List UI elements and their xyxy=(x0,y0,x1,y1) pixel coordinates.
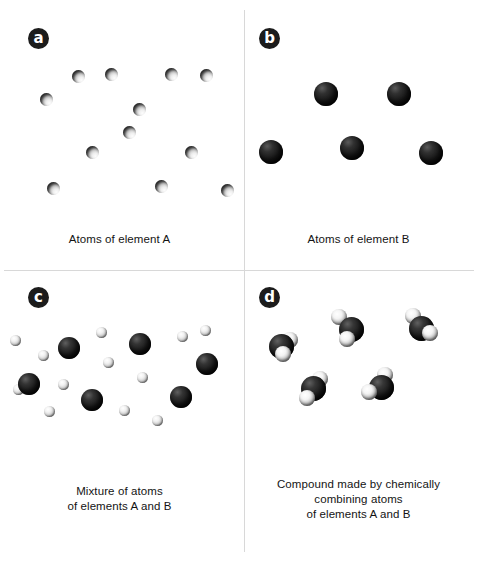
caption-line: combining atoms xyxy=(239,492,478,507)
atom-element-b xyxy=(419,141,443,165)
atom-element-a xyxy=(72,70,85,83)
panel-c-scene xyxy=(0,281,239,506)
atom-element-a xyxy=(47,182,60,195)
atom-element-b xyxy=(340,136,364,160)
atom-element-a xyxy=(58,379,69,390)
atom-element-a xyxy=(96,327,107,338)
molecule-compound-ab xyxy=(331,309,375,349)
atom-element-a xyxy=(105,68,118,81)
panel-d-caption: Compound made by chemicallycombining ato… xyxy=(239,477,478,522)
atom-element-a xyxy=(165,68,178,81)
atom-element-a xyxy=(103,357,114,368)
atom-element-b xyxy=(196,353,218,375)
atom-element-b xyxy=(387,82,411,106)
molecule-compound-ab xyxy=(261,326,305,366)
figure-canvas: a Atoms of element A b Atoms of element … xyxy=(0,0,478,562)
atom-element-b xyxy=(18,373,40,395)
atom-element-a xyxy=(40,93,53,106)
panel-c-caption: Mixture of atomsof elements A and B xyxy=(0,484,239,514)
atom-element-a xyxy=(38,350,49,361)
caption-line: Atoms of element A xyxy=(0,232,239,247)
atom-element-b xyxy=(314,82,338,106)
molecule-atom-element-a xyxy=(339,331,355,347)
molecule-compound-ab xyxy=(293,368,337,408)
atom-element-a xyxy=(123,126,136,139)
panel-c: c Mixture of atomsof elements A and B xyxy=(0,281,239,562)
panel-d: d Compound made by chemicallycombining a… xyxy=(239,281,478,562)
atom-element-a xyxy=(137,372,148,383)
panel-a-scene xyxy=(0,0,239,225)
atom-element-b xyxy=(259,140,283,164)
atom-element-a xyxy=(152,415,163,426)
atom-element-a xyxy=(177,331,188,342)
molecule-atom-element-a xyxy=(275,346,291,362)
atom-element-a xyxy=(119,405,130,416)
atom-element-b xyxy=(170,386,192,408)
atom-element-a xyxy=(86,146,99,159)
atom-element-a xyxy=(200,325,211,336)
molecule-atom-element-a xyxy=(299,390,315,406)
caption-line: of elements A and B xyxy=(0,499,239,514)
panel-a-caption: Atoms of element A xyxy=(0,232,239,247)
panel-b-scene xyxy=(239,0,478,225)
atom-element-a xyxy=(200,69,213,82)
molecule-compound-ab xyxy=(401,308,445,348)
atom-element-b xyxy=(129,333,151,355)
atom-element-a xyxy=(133,103,146,116)
atom-element-b xyxy=(81,389,103,411)
atom-element-a xyxy=(155,180,168,193)
caption-line: Compound made by chemically xyxy=(239,477,478,492)
molecule-atom-element-a xyxy=(422,325,438,341)
atom-element-a xyxy=(221,184,234,197)
molecule-atom-element-a xyxy=(361,384,377,400)
atom-element-a xyxy=(10,335,21,346)
caption-line: of elements A and B xyxy=(239,507,478,522)
caption-line: Mixture of atoms xyxy=(0,484,239,499)
atom-element-a xyxy=(44,406,55,417)
atom-element-a xyxy=(185,146,198,159)
atom-element-b xyxy=(58,337,80,359)
panel-b: b Atoms of element B xyxy=(239,0,478,281)
panel-a: a Atoms of element A xyxy=(0,0,239,281)
panel-b-caption: Atoms of element B xyxy=(239,232,478,247)
caption-line: Atoms of element B xyxy=(239,232,478,247)
molecule-compound-ab xyxy=(361,367,405,407)
panel-d-scene xyxy=(239,281,478,506)
